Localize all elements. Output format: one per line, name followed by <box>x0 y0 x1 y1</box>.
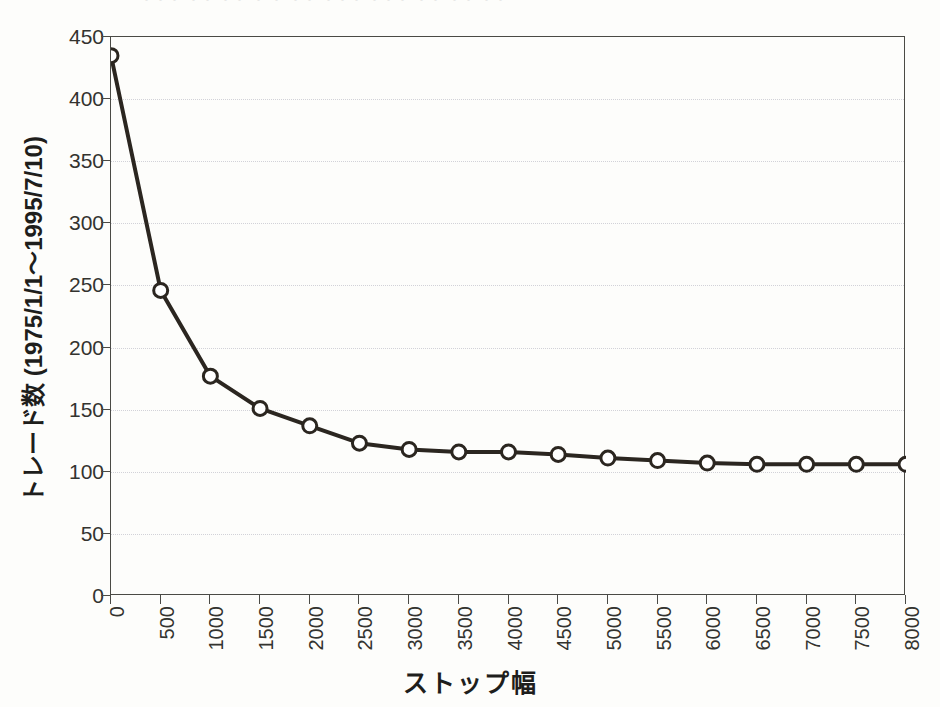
x-axis-tick-labels: 0500100015002000250030003500400045005000… <box>110 606 906 666</box>
y-axis-tick-mark <box>101 284 110 285</box>
plot-area <box>110 36 905 595</box>
x-axis-tick-label: 2500 <box>354 606 377 651</box>
x-axis-tick-label: 500 <box>155 606 178 639</box>
y-axis-tick-label: 250 <box>40 273 104 297</box>
data-point-marker <box>352 436 366 450</box>
series-line-trades <box>111 37 906 596</box>
y-axis-tick-mark <box>101 222 110 223</box>
x-axis-tick-mark <box>855 595 856 604</box>
x-axis-tick-label: 2000 <box>304 606 327 651</box>
x-axis-tick-label: 7500 <box>851 606 874 651</box>
x-axis-tick-mark <box>358 595 359 604</box>
caption-fragment-text: ・・・ ・・ ・・ ・ ・ ・・ ・・・ ・・・ ・・ ・・ ・・ <box>140 0 508 8</box>
data-point-marker <box>402 442 416 456</box>
x-axis-tick-mark <box>756 595 757 604</box>
data-point-marker <box>750 457 764 471</box>
x-axis-tick-mark <box>657 595 658 604</box>
y-axis-tick-mark <box>101 471 110 472</box>
y-axis-tick-mark <box>101 595 110 596</box>
x-axis-tick-mark <box>806 595 807 604</box>
x-axis-tick-label: 6000 <box>702 606 725 651</box>
x-axis-tick-mark <box>309 595 310 604</box>
data-point-marker <box>154 283 168 297</box>
x-axis-tick-label: 6500 <box>751 606 774 651</box>
x-axis-tick-mark <box>607 595 608 604</box>
data-point-marker <box>601 451 615 465</box>
x-axis-tick-mark <box>557 595 558 604</box>
x-axis-tick-label: 4000 <box>503 606 526 651</box>
y-axis-tick-mark <box>101 533 110 534</box>
y-axis-tick-label: 350 <box>40 149 104 173</box>
x-axis-tick-mark <box>458 595 459 604</box>
x-axis-tick-mark <box>160 595 161 604</box>
y-axis-tick-mark <box>101 160 110 161</box>
x-axis-tick-mark <box>408 595 409 604</box>
x-axis-tick-mark <box>259 595 260 604</box>
data-point-marker <box>849 457 863 471</box>
x-axis-tick-label: 1000 <box>205 606 228 651</box>
data-point-marker <box>111 49 118 63</box>
x-axis-tick-label: 7000 <box>801 606 824 651</box>
y-axis-tick-label: 150 <box>40 398 104 422</box>
y-axis-tick-label: 100 <box>40 460 104 484</box>
y-axis-tick-label: 400 <box>40 87 104 111</box>
series-polyline <box>111 56 906 465</box>
x-axis-tick-mark <box>110 595 111 604</box>
data-point-marker <box>899 457 906 471</box>
y-axis-tick-mark <box>101 98 110 99</box>
x-axis-tick-mark <box>905 595 906 604</box>
x-axis-tick-label: 0 <box>106 606 129 617</box>
x-axis-tick-label: 3000 <box>404 606 427 651</box>
cut-off-caption-strip: ・・・ ・・ ・・ ・ ・ ・・ ・・・ ・・・ ・・ ・・ ・・ <box>0 0 940 14</box>
y-axis-title: トレード数 (1975/1/1～1995/7/10) <box>14 60 49 580</box>
x-axis-tick-label: 5500 <box>652 606 675 651</box>
data-point-marker <box>502 445 516 459</box>
chart-figure: ・・・ ・・ ・・ ・ ・ ・・ ・・・ ・・・ ・・ ・・ ・・ 050100… <box>0 0 940 707</box>
y-axis-tick-label: 0 <box>40 584 104 608</box>
y-axis-tick-label: 300 <box>40 211 104 235</box>
x-axis-tick-label: 8000 <box>901 606 924 651</box>
x-axis-tick-marks <box>110 595 906 605</box>
data-point-marker <box>651 454 665 468</box>
y-axis-tick-label: 50 <box>40 522 104 546</box>
data-point-marker <box>551 447 565 461</box>
data-point-marker <box>303 419 317 433</box>
data-point-marker <box>203 369 217 383</box>
x-axis-tick-label: 5000 <box>602 606 625 651</box>
y-axis-tick-mark <box>101 36 110 37</box>
data-point-marker <box>253 401 267 415</box>
y-axis-tick-mark <box>101 409 110 410</box>
x-axis-tick-mark <box>706 595 707 604</box>
x-axis-tick-label: 3500 <box>453 606 476 651</box>
y-axis-tick-mark <box>101 347 110 348</box>
x-axis-tick-mark <box>508 595 509 604</box>
data-point-marker <box>800 457 814 471</box>
data-point-marker <box>452 445 466 459</box>
x-axis-tick-label: 4500 <box>553 606 576 651</box>
y-axis-tick-label: 200 <box>40 336 104 360</box>
x-axis-title: ストップ幅 <box>0 663 940 699</box>
y-axis-tick-label: 450 <box>40 25 104 49</box>
x-axis-tick-mark <box>209 595 210 604</box>
data-point-marker <box>700 456 714 470</box>
x-axis-tick-label: 1500 <box>255 606 278 651</box>
